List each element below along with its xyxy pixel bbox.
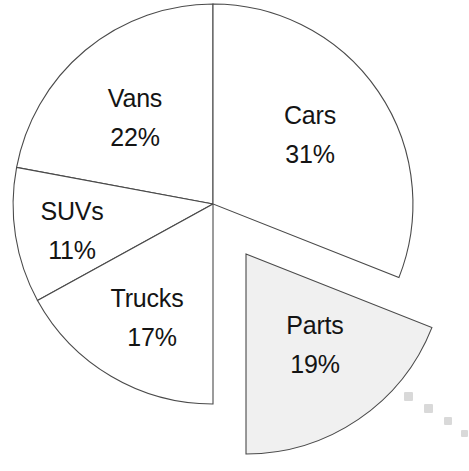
pie-label-suvs-percent: 11% bbox=[48, 236, 96, 264]
decorative-dot bbox=[461, 430, 468, 437]
pie-label-cars-percent: 31% bbox=[285, 140, 334, 168]
pie-chart-figure: Cars 31% Vans 22% SUVs 11% Trucks 17% Pa… bbox=[0, 0, 469, 471]
pie-label-vans-percent: 22% bbox=[110, 123, 159, 151]
pie-label-vans-name: Vans bbox=[108, 84, 162, 112]
pie-label-suvs-name: SUVs bbox=[40, 197, 103, 225]
pie-chart-svg: Cars 31% Vans 22% SUVs 11% Trucks 17% Pa… bbox=[0, 0, 469, 471]
pie-label-parts-name: Parts bbox=[286, 311, 343, 339]
decorative-dot bbox=[444, 417, 452, 425]
pie-label-cars-name: Cars bbox=[284, 101, 336, 129]
pie-label-trucks-percent: 17% bbox=[127, 323, 176, 351]
decorative-dot bbox=[404, 392, 413, 401]
pie-label-trucks-name: Trucks bbox=[111, 284, 184, 312]
decorative-dot bbox=[424, 404, 433, 413]
pie-label-parts-percent: 19% bbox=[290, 350, 339, 378]
